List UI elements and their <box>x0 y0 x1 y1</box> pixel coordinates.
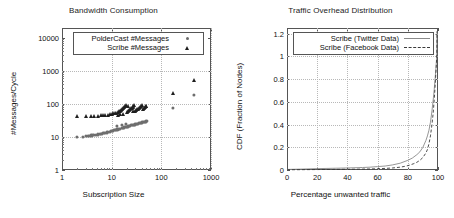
y-tick <box>62 170 65 171</box>
grid-line-v <box>211 28 212 170</box>
y-minor-tick <box>62 144 64 145</box>
x-minor-tick <box>127 168 128 170</box>
x-minor-tick <box>176 168 177 170</box>
y-minor-tick <box>62 138 64 139</box>
legend-label-twitter: Scribe (Twitter Data) <box>331 34 399 43</box>
y-minor-tick <box>62 114 64 115</box>
legend-marker-triangle-icon <box>174 46 200 50</box>
x-minor-tick <box>157 168 158 170</box>
data-point <box>131 109 135 113</box>
x-axis-title-left: Subscription Size <box>0 190 227 199</box>
x-minor-tick <box>104 168 105 170</box>
y-tick-label: 1 <box>30 166 59 175</box>
x-tick-label: 10 <box>107 173 115 182</box>
panel-bandwidth-consumption: Bandwidth Consumption #Messages/Cycle 11… <box>0 0 227 218</box>
x-minor-tick <box>154 168 155 170</box>
y-minor-tick <box>62 105 64 106</box>
y-minor-tick <box>62 39 64 40</box>
x-minor-tick <box>92 168 93 170</box>
y-minor-tick <box>62 55 64 56</box>
y-tick-label: 10000 <box>30 33 59 42</box>
data-point <box>144 104 148 108</box>
legend-line-solid-icon <box>404 38 430 39</box>
y-minor-tick <box>62 154 64 155</box>
x-minor-tick <box>107 168 108 170</box>
x-minor-tick <box>150 168 151 170</box>
y-minor-tick <box>62 94 64 95</box>
y-minor-tick <box>62 74 64 75</box>
y-minor-tick <box>62 147 64 148</box>
y-minor-tick <box>62 43 64 44</box>
x-minor-tick <box>191 168 192 170</box>
y-minor-tick <box>62 76 64 77</box>
y-minor-tick <box>62 88 64 89</box>
x-minor-tick <box>86 168 87 170</box>
x-tick <box>62 28 63 31</box>
legend-label-poldercast: PolderCast #Messages <box>91 34 169 43</box>
y-minor-tick <box>62 107 64 108</box>
y-minor-tick <box>62 109 64 110</box>
legend-item-poldercast: PolderCast #Messages <box>77 34 200 43</box>
y-minor-tick <box>62 127 64 128</box>
x-tick-label: 100 <box>155 173 168 182</box>
grid-line-h <box>62 104 211 105</box>
y-minor-tick <box>62 48 64 49</box>
x-minor-tick <box>97 168 98 170</box>
y-minor-tick <box>62 111 64 112</box>
legend-line-dashed-icon <box>404 47 430 48</box>
data-point <box>75 114 79 118</box>
data-point <box>192 78 196 82</box>
x-minor-tick <box>109 168 110 170</box>
y-minor-tick <box>62 72 64 73</box>
x-minor-tick <box>146 168 147 170</box>
legend-item-facebook: Scribe (Facebook Data) <box>297 43 430 52</box>
y-minor-tick <box>62 150 64 151</box>
chart-title-left: Bandwidth Consumption <box>0 6 227 15</box>
y-minor-tick <box>62 81 64 82</box>
x-minor-tick <box>135 168 136 170</box>
y-minor-tick <box>62 78 64 79</box>
legend-label-scribe: Scribe #Messages <box>107 43 169 52</box>
y-minor-tick <box>62 140 64 141</box>
y-minor-tick <box>62 41 64 42</box>
legend-item-twitter: Scribe (Twitter Data) <box>297 34 430 43</box>
figure-container: Bandwidth Consumption #Messages/Cycle 11… <box>0 0 454 218</box>
y-minor-tick <box>62 61 64 62</box>
grid-line-h <box>62 71 211 72</box>
y-minor-tick <box>62 121 64 122</box>
legend-label-facebook: Scribe (Facebook Data) <box>320 43 399 52</box>
y-minor-tick <box>62 45 64 46</box>
y-tick-label: 1000 <box>30 66 59 75</box>
data-point <box>84 114 88 118</box>
legend-right: Scribe (Twitter Data) Scribe (Facebook D… <box>293 32 434 55</box>
data-point <box>121 112 125 116</box>
x-tick-label: 1 <box>60 173 64 182</box>
y-tick <box>208 170 211 171</box>
x-tick-label: 1000 <box>203 173 220 182</box>
y-tick-label: 100 <box>30 99 59 108</box>
panel-traffic-overhead: Traffic Overhead Distribution CDF (Fract… <box>227 0 454 218</box>
x-minor-tick <box>196 168 197 170</box>
y-tick-label: 10 <box>30 132 59 141</box>
data-point <box>171 91 175 95</box>
x-minor-tick <box>101 168 102 170</box>
y-minor-tick <box>62 84 64 85</box>
x-minor-tick <box>203 168 204 170</box>
legend-left: PolderCast #Messages Scribe #Messages <box>73 32 204 55</box>
legend-item-scribe: Scribe #Messages <box>77 43 200 52</box>
x-minor-tick <box>185 168 186 170</box>
x-minor-tick <box>142 168 143 170</box>
x-minor-tick <box>159 168 160 170</box>
x-minor-tick <box>77 168 78 170</box>
y-minor-tick <box>62 160 64 161</box>
y-minor-tick <box>62 117 64 118</box>
y-minor-tick <box>62 142 64 143</box>
data-point <box>126 104 130 108</box>
y-minor-tick <box>62 51 64 52</box>
x-axis-title-right: Percentage unwanted traffic <box>227 190 454 199</box>
legend-marker-circle-icon <box>174 37 200 40</box>
x-minor-tick <box>200 168 201 170</box>
y-axis-title-left: #Messages/Cycle <box>9 72 18 135</box>
